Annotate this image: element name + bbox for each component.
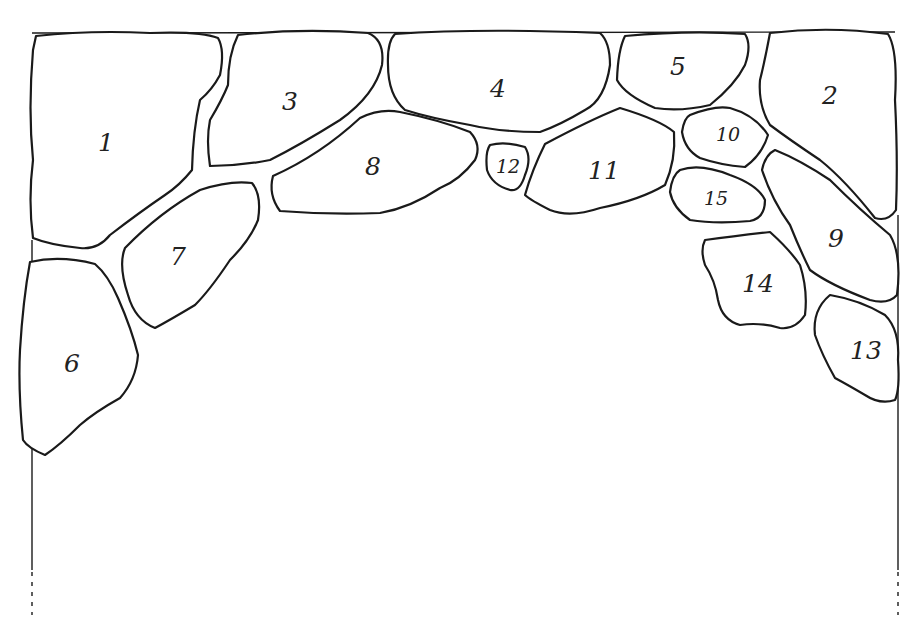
stone-11-label: 11 — [588, 156, 620, 185]
stone-5-label: 5 — [670, 52, 686, 81]
stone-13: 13 — [815, 295, 899, 402]
stone-14: 14 — [703, 232, 806, 328]
stone-2-label: 2 — [821, 81, 838, 110]
stone-layout-diagram: 1 3 4 5 2 8 12 11 7 6 — [0, 0, 922, 632]
stone-12: 12 — [486, 143, 528, 190]
stone-9-label: 9 — [828, 224, 844, 253]
stone-14-label: 14 — [742, 269, 774, 298]
stone-10-label: 10 — [716, 123, 740, 145]
stone-8-label: 8 — [365, 152, 381, 181]
stone-6: 6 — [19, 259, 138, 455]
stone-3-label: 3 — [282, 87, 298, 116]
stone-13-label: 13 — [850, 336, 882, 365]
stone-5: 5 — [617, 32, 749, 109]
stone-7-label: 7 — [170, 242, 186, 271]
stone-10: 10 — [682, 107, 768, 167]
stone-6-label: 6 — [64, 349, 80, 378]
stone-15: 15 — [670, 167, 765, 222]
stone-4-label: 4 — [489, 74, 506, 103]
stone-12-label: 12 — [496, 155, 520, 177]
stone-15-label: 15 — [704, 187, 728, 209]
stone-1-label: 1 — [98, 128, 114, 157]
